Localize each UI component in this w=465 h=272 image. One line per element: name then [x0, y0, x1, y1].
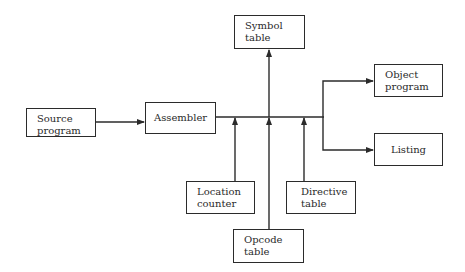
node-label: Object program — [385, 69, 429, 93]
node-object-program: Object program — [374, 64, 443, 97]
node-label: Directive table — [301, 186, 347, 210]
node-opcode-table: Opcode table — [233, 229, 304, 263]
node-listing: Listing — [374, 133, 443, 166]
node-source-program: Source program — [26, 108, 96, 137]
node-label: Listing — [375, 144, 442, 156]
node-label: Symbol table — [245, 20, 283, 44]
node-directive-table: Directive table — [286, 181, 356, 214]
node-label: Assembler — [146, 112, 215, 124]
node-symbol-table: Symbol table — [234, 15, 305, 49]
arrow-to-object-program — [323, 81, 373, 117]
node-label: Opcode table — [244, 234, 283, 258]
node-assembler: Assembler — [145, 102, 216, 134]
arrow-to-listing — [323, 117, 373, 150]
node-location-counter: Location counter — [186, 181, 255, 214]
node-label: Location counter — [197, 186, 241, 210]
node-label: Source program — [37, 113, 81, 137]
